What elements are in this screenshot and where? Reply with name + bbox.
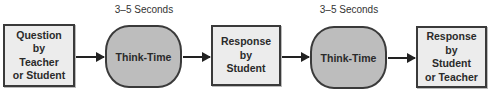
arrow-think2-to-response2 [388,57,415,59]
arrow-question-to-think1 [76,56,104,58]
node-line: Student [221,62,271,76]
node-line: by [425,44,478,58]
question-node: Question by Teacher or Student [3,24,75,87]
think-time-node-1: Think-Time [105,25,182,88]
node-line: by [221,49,271,63]
response-by-student-node: Response by Student [211,25,281,86]
node-line: or Teacher [425,71,478,85]
think-time-2-duration-label: 3–5 Seconds [309,4,389,15]
think-time-1-duration-label: 3–5 Seconds [104,4,184,15]
arrow-think1-to-response1 [183,56,210,58]
node-line: Response [221,35,271,49]
node-label: Think-Time [116,51,172,63]
node-line: Teacher [13,56,66,70]
node-line: Question [13,29,66,43]
node-line: Student [425,57,478,71]
node-label: Think-Time [321,52,377,64]
node-line: or Student [13,69,66,83]
response-by-student-or-teacher-node: Response by Student or Teacher [416,26,487,88]
arrow-response1-to-think2 [282,56,309,58]
node-line: Response [425,30,478,44]
node-line: by [13,42,66,56]
think-time-node-2: Think-Time [310,26,387,89]
